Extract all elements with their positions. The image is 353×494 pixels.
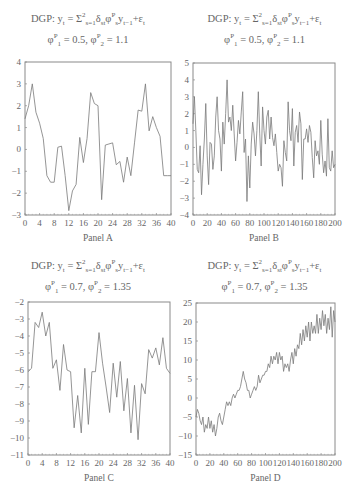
y-tick-label: 4 <box>17 57 22 67</box>
x-tick-label: 100 <box>259 458 273 468</box>
y-tick-label: 3 <box>17 79 22 89</box>
x-tick-label: 60 <box>231 218 241 228</box>
x-tick-label: 120 <box>273 458 287 468</box>
y-tick-label: 15 <box>183 336 193 346</box>
panel-a: DGP: yt = Σ2s=1δstφPsyt−1+εt φP1 = 0.5, … <box>0 0 176 247</box>
x-tick-label: 140 <box>287 458 301 468</box>
y-tick-label: 2 <box>185 109 190 119</box>
x-tick-label: 180 <box>314 458 328 468</box>
y-tick-label: −3 <box>14 314 24 324</box>
y-tick-label: 3 <box>185 92 190 102</box>
x-tick-label: 28 <box>123 218 133 228</box>
x-tick-label: 80 <box>247 458 257 468</box>
panel-b-chart-frame <box>193 63 335 215</box>
panel-a-chart-series-line <box>25 84 171 211</box>
panel-d-chart-xlabel: Panel D <box>250 473 280 483</box>
y-tick-label: 4 <box>185 75 190 85</box>
panel-b-chart-series-line <box>193 80 335 202</box>
panel-a-chart-frame <box>25 62 171 215</box>
y-tick-label: 0 <box>185 142 190 152</box>
x-tick-label: 12 <box>64 218 73 228</box>
y-tick-label: 1 <box>17 123 22 133</box>
x-tick-label: 120 <box>271 218 285 228</box>
y-tick-label: 0 <box>188 393 193 403</box>
panel-a-chart: 0481216202428323640−3−2−101234Panel A <box>0 0 176 247</box>
x-tick-label: 100 <box>257 218 271 228</box>
x-tick-label: 16 <box>80 458 90 468</box>
y-tick-label: −10 <box>178 431 193 441</box>
y-tick-label: −1 <box>179 159 189 169</box>
panel-c-chart: 0481216202428323640−11−10−9−8−7−6−5−4−3−… <box>0 247 176 494</box>
x-tick-label: 20 <box>95 458 105 468</box>
x-tick-label: 40 <box>167 218 177 228</box>
y-tick-label: −1 <box>11 166 21 176</box>
panel-d: DGP: yt = Σ2s=1δstφPsyt−1+εt φP1 = 0.7, … <box>176 247 353 494</box>
x-tick-label: 160 <box>300 218 314 228</box>
panel-b-chart: 020406080100120140160180200−4−3−2−101234… <box>176 0 353 247</box>
y-tick-label: 1 <box>185 126 190 136</box>
y-tick-label: −3 <box>11 210 21 220</box>
panel-b: DGP: yt = Σ2s=1δstφPsyt−1+εt φP1 = 0.5, … <box>176 0 353 247</box>
x-tick-label: 0 <box>23 218 28 228</box>
x-tick-label: 160 <box>300 458 314 468</box>
y-tick-label: −2 <box>179 176 189 186</box>
x-tick-label: 60 <box>233 458 243 468</box>
x-tick-label: 8 <box>54 458 59 468</box>
x-tick-label: 24 <box>108 218 118 228</box>
y-tick-label: 2 <box>17 101 22 111</box>
panel-b-chart-xlabel: Panel B <box>249 233 279 243</box>
x-tick-label: 8 <box>52 218 57 228</box>
y-tick-label: −3 <box>179 193 189 203</box>
x-tick-label: 12 <box>66 458 75 468</box>
y-tick-label: 0 <box>17 144 22 154</box>
y-tick-label: −6 <box>14 365 24 375</box>
x-tick-label: 20 <box>203 218 213 228</box>
x-tick-label: 20 <box>205 458 215 468</box>
y-tick-label: −2 <box>14 297 24 307</box>
y-tick-label: 25 <box>183 298 193 308</box>
panel-a-chart-xlabel: Panel A <box>83 233 113 243</box>
x-tick-label: 4 <box>37 218 42 228</box>
x-tick-label: 32 <box>137 218 146 228</box>
x-tick-label: 200 <box>328 458 342 468</box>
x-tick-label: 4 <box>40 458 45 468</box>
x-tick-label: 140 <box>286 218 300 228</box>
x-tick-label: 40 <box>166 458 176 468</box>
y-tick-label: −5 <box>14 348 24 358</box>
y-tick-label: −8 <box>14 399 24 409</box>
y-tick-label: −5 <box>182 412 192 422</box>
y-tick-label: −2 <box>11 188 21 198</box>
x-tick-label: 0 <box>191 218 196 228</box>
y-tick-label: −15 <box>178 450 193 460</box>
y-tick-label: −11 <box>10 450 24 460</box>
x-tick-label: 20 <box>94 218 104 228</box>
x-tick-label: 24 <box>109 458 119 468</box>
x-tick-label: 36 <box>152 218 162 228</box>
x-tick-label: 0 <box>194 458 199 468</box>
panel-c: DGP: yt = Σ2s=1δstφPsyt−1+εt φP1 = 0.7, … <box>0 247 176 494</box>
x-tick-label: 0 <box>26 458 31 468</box>
y-tick-label: 10 <box>183 355 193 365</box>
x-tick-label: 80 <box>245 218 255 228</box>
y-tick-label: −10 <box>10 433 25 443</box>
x-tick-label: 40 <box>219 458 229 468</box>
x-tick-label: 200 <box>328 218 342 228</box>
panel-c-chart-xlabel: Panel C <box>84 473 114 483</box>
panel-c-chart-series-line <box>28 312 170 440</box>
panel-d-chart-series-line <box>196 307 335 436</box>
y-tick-label: −4 <box>14 331 24 341</box>
x-tick-label: 28 <box>123 458 133 468</box>
x-tick-label: 40 <box>217 218 227 228</box>
y-tick-label: 5 <box>185 58 190 68</box>
y-tick-label: −4 <box>179 210 189 220</box>
panel-d-chart: 020406080100120140160180200−15−10−505101… <box>176 247 353 494</box>
x-tick-label: 32 <box>137 458 146 468</box>
y-tick-label: −9 <box>14 416 24 426</box>
y-tick-label: −7 <box>14 382 24 392</box>
y-tick-label: 5 <box>188 374 193 384</box>
x-tick-label: 16 <box>79 218 89 228</box>
x-tick-label: 36 <box>151 458 161 468</box>
y-tick-label: 20 <box>183 317 193 327</box>
x-tick-label: 180 <box>314 218 328 228</box>
